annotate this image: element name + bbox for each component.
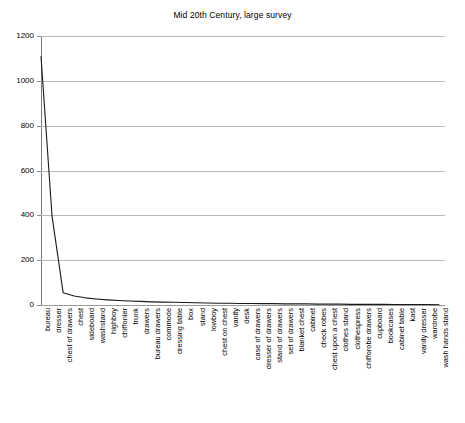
x-axis-tick-label: lowboy — [210, 308, 217, 331]
x-axis-tick-label: drawers — [143, 308, 150, 334]
x-axis-tick-label: highboy — [110, 308, 117, 334]
x-axis-tick-label: chest of drawers — [66, 308, 73, 362]
x-axis-tick-label: wardrobe — [431, 308, 438, 339]
x-axis-tick-label: kast — [409, 308, 416, 322]
x-axis-tick-label: washstand — [99, 308, 106, 343]
chart-title: Mid 20th Century, large survey — [0, 10, 465, 20]
y-axis-tick-label: 0 — [0, 301, 34, 309]
x-axis-tick-label: set of drawers — [287, 308, 294, 354]
y-axis-tick-label: 600 — [0, 167, 34, 175]
x-axis-tick-labels: bureaudresserchest of drawerschestsidebo… — [41, 308, 445, 423]
x-axis-tick-label: stand of drawers — [276, 308, 283, 363]
x-axis-tick-label: box — [187, 308, 194, 320]
y-axis-tick-label: 200 — [0, 256, 34, 264]
chart-container: Mid 20th Century, large survey 020040060… — [0, 0, 465, 423]
x-axis-tick-label: dresser — [55, 308, 62, 333]
x-axis-tick-label: trunk — [132, 308, 139, 324]
plot-area — [41, 36, 445, 305]
x-axis-tick-label: check robes — [320, 308, 327, 348]
x-axis-tick-label: chifforobe drawers — [365, 308, 372, 369]
y-axis-tick-label: 800 — [0, 122, 34, 130]
x-axis-tick-label: chiffonier — [121, 308, 128, 338]
x-axis-tick-label: vanity — [232, 308, 239, 327]
x-axis-tick-label: bureau — [44, 308, 51, 331]
x-axis-tick-label: clothes stand — [342, 308, 349, 352]
x-axis-tick-label: chest — [77, 308, 84, 326]
y-axis-tick-mark — [37, 305, 41, 306]
y-axis-tick-label: 1000 — [0, 77, 34, 85]
x-axis-tick-label: commode — [165, 308, 172, 340]
x-axis-tick-label: wash hands stand — [442, 308, 449, 368]
x-axis-tick-label: cabinet — [309, 308, 316, 332]
x-axis-tick-label: desk — [243, 308, 250, 324]
x-axis-tick-label: clothespress — [354, 308, 361, 350]
y-axis-tick-label: 1200 — [0, 32, 34, 40]
x-axis-tick-label: vanity dresser — [420, 308, 427, 354]
x-axis-tick-label: bureau drawers — [154, 308, 161, 359]
x-axis-tick-label: chest upon a chest — [331, 308, 338, 370]
x-axis-tick-label: sideboard — [88, 308, 95, 340]
y-axis-tick-label: 400 — [0, 211, 34, 219]
x-axis-tick-label: cabinet table — [398, 308, 405, 350]
x-axis-tick-label: dressing table — [176, 308, 183, 354]
x-axis-tick-label: dresser of drawers — [265, 308, 272, 369]
series-line — [41, 36, 445, 305]
x-axis-tick-label: case of drawers — [254, 308, 261, 360]
x-axis-tick-label: cupboard — [376, 308, 383, 339]
x-axis-tick-label: stand — [199, 308, 206, 326]
x-axis-line — [41, 305, 445, 306]
x-axis-tick-label: blanket chest — [298, 308, 305, 352]
x-axis-tick-label: bookcases — [387, 308, 394, 343]
x-axis-tick-label: chest on chest — [221, 308, 228, 356]
